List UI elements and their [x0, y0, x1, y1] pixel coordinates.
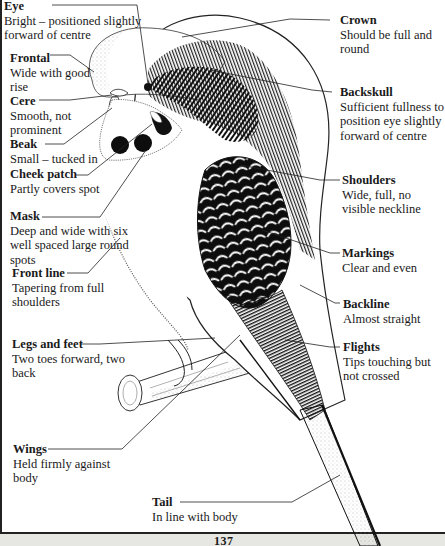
label-title: Front line — [12, 266, 112, 281]
label-backline: Backline Almost straight — [343, 297, 443, 326]
label-title: Cere — [10, 94, 110, 109]
label-title: Markings — [342, 246, 442, 261]
label-desc: Held firmly against body — [13, 457, 133, 486]
label-shoulders: Shoulders Wide, full, no visible necklin… — [342, 173, 442, 217]
label-frontal: Frontal Wide with good rise — [10, 51, 95, 95]
label-flights: Flights Tips touching but not crossed — [343, 340, 445, 384]
label-title: Tail — [152, 495, 282, 510]
label-title: Eye — [4, 0, 144, 14]
label-title: Mask — [10, 209, 135, 224]
label-desc: Almost straight — [343, 312, 443, 327]
label-title: Crown — [340, 13, 445, 28]
label-desc: Wide with good rise — [10, 66, 95, 95]
label-legs-and-feet: Legs and feet Two toes forward, two back — [12, 337, 127, 381]
label-mask: Mask Deep and wide with six well spaced … — [10, 209, 135, 267]
label-desc: Clear and even — [342, 261, 442, 276]
label-desc: Sufficient fullness to position eye slig… — [340, 100, 445, 144]
label-title: Cheek patch — [10, 167, 130, 182]
label-desc: Smooth, not prominent — [10, 109, 110, 138]
label-title: Legs and feet — [12, 337, 127, 352]
label-desc: Bright – positioned slightly forward of … — [4, 14, 144, 43]
label-crown: Crown Should be full and round — [340, 13, 445, 57]
label-desc: Deep and wide with six well spaced large… — [10, 224, 135, 268]
label-markings: Markings Clear and even — [342, 246, 442, 275]
label-title: Backskull — [340, 85, 445, 100]
label-wings: Wings Held firmly against body — [13, 442, 133, 486]
label-desc: In line with body — [152, 510, 282, 525]
label-beak: Beak Small – tucked in — [10, 137, 130, 166]
label-title: Frontal — [10, 51, 95, 66]
label-title: Shoulders — [342, 173, 442, 188]
label-desc: Partly covers spot — [10, 182, 130, 197]
label-title: Backline — [343, 297, 443, 312]
label-title: Flights — [343, 340, 445, 355]
label-title: Wings — [13, 442, 133, 457]
label-backskull: Backskull Sufficient fullness to positio… — [340, 85, 445, 143]
label-desc: Tips touching but not crossed — [343, 355, 445, 384]
label-desc: Should be full and round — [340, 28, 445, 57]
label-front-line: Front line Tapering from full shoulders — [12, 266, 112, 310]
tail — [300, 405, 380, 546]
label-desc: Small – tucked in — [10, 152, 130, 167]
label-cheek-patch: Cheek patch Partly covers spot — [10, 167, 130, 196]
label-desc: Two toes forward, two back — [12, 352, 127, 381]
label-cere: Cere Smooth, not prominent — [10, 94, 110, 138]
label-title: Beak — [10, 137, 130, 152]
label-desc: Wide, full, no visible neckline — [342, 188, 442, 217]
label-tail: Tail In line with body — [152, 495, 282, 524]
label-desc: Tapering from full shoulders — [12, 281, 112, 310]
label-eye: Eye Bright – positioned slightly forward… — [4, 0, 144, 43]
